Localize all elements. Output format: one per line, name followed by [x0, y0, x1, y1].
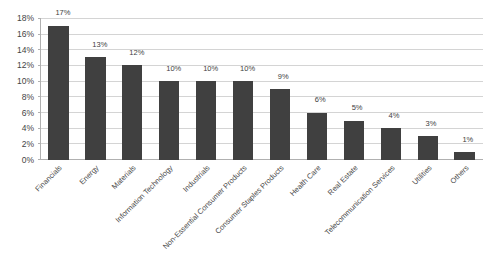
bar[interactable]: [454, 152, 474, 160]
bar-slot[interactable]: 12%: [114, 18, 151, 160]
category-slot: Consumer Staples Products: [262, 161, 299, 269]
bar-slot[interactable]: 10%: [188, 18, 225, 160]
bar-value-label: 13%: [92, 40, 107, 49]
bar-chart: 0%2%4%6%8%10%12%14%16%18% 17%13%12%10%10…: [0, 0, 497, 269]
bar-slot[interactable]: 4%: [372, 18, 409, 160]
x-axis-category-labels: FinancialsEnergyMaterialsInformation Tec…: [40, 161, 483, 269]
bar[interactable]: [159, 81, 179, 160]
y-axis-tick-label: 12%: [17, 61, 34, 70]
bar-value-label: 10%: [203, 64, 218, 73]
y-axis-tick-label: 2%: [22, 140, 34, 149]
bar-slot[interactable]: 10%: [151, 18, 188, 160]
y-axis-tick-label: 10%: [17, 77, 34, 86]
bar[interactable]: [233, 81, 253, 160]
bar-value-label: 17%: [55, 9, 70, 18]
bar-value-label: 1%: [462, 135, 473, 144]
bar-slot[interactable]: 3%: [409, 18, 446, 160]
bars-layer: 17%13%12%10%10%10%9%6%5%4%3%1%: [40, 18, 483, 160]
category-slot: Health Care: [298, 161, 335, 269]
y-axis-tick-label: 6%: [22, 108, 34, 117]
bar[interactable]: [196, 81, 216, 160]
y-axis-tick-label: 0%: [22, 156, 34, 165]
y-axis-tick-label: 8%: [22, 93, 34, 102]
bar-slot[interactable]: 9%: [262, 18, 299, 160]
bar[interactable]: [85, 57, 105, 160]
bar[interactable]: [122, 65, 142, 160]
bar-value-label: 10%: [166, 64, 181, 73]
bar-value-label: 9%: [278, 72, 289, 81]
category-slot: Others: [446, 161, 483, 269]
y-axis-tick-labels: 0%2%4%6%8%10%12%14%16%18%: [0, 18, 34, 160]
bar-slot[interactable]: 13%: [77, 18, 114, 160]
bar[interactable]: [381, 128, 401, 160]
bar-slot[interactable]: 6%: [298, 18, 335, 160]
y-axis-tick-label: 14%: [17, 45, 34, 54]
bar[interactable]: [307, 113, 327, 160]
bar-value-label: 3%: [426, 119, 437, 128]
y-axis-tick-label: 4%: [22, 124, 34, 133]
bar[interactable]: [48, 26, 68, 160]
bar-value-label: 4%: [389, 111, 400, 120]
category-label: Financials: [35, 164, 64, 193]
y-axis-tick-label: 16%: [17, 30, 34, 39]
bar-value-label: 6%: [315, 96, 326, 105]
category-slot: Financials: [40, 161, 77, 269]
bar-value-label: 12%: [129, 48, 144, 57]
category-label: Energy: [79, 164, 101, 186]
bar-value-label: 5%: [352, 104, 363, 113]
category-slot: Energy: [77, 161, 114, 269]
bar[interactable]: [270, 89, 290, 160]
bar-slot[interactable]: 1%: [446, 18, 483, 160]
category-slot: Information Technology: [151, 161, 188, 269]
bar[interactable]: [344, 121, 364, 160]
bar-slot[interactable]: 5%: [335, 18, 372, 160]
category-label: Materials: [111, 164, 138, 191]
bar-slot[interactable]: 17%: [40, 18, 77, 160]
bar[interactable]: [418, 136, 438, 160]
y-axis-tick-label: 18%: [17, 14, 34, 23]
category-slot: Telecommunication Services: [372, 161, 409, 269]
category-label: Utilities: [411, 164, 434, 187]
bar-value-label: 10%: [240, 64, 255, 73]
bar-slot[interactable]: 10%: [225, 18, 262, 160]
category-slot: Utilities: [409, 161, 446, 269]
category-label: Others: [449, 164, 470, 185]
